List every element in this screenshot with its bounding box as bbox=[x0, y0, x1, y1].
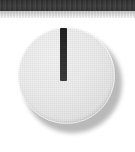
subheader-band bbox=[0, 11, 135, 18]
rotary-knob[interactable] bbox=[14, 24, 124, 138]
knob-screenshot bbox=[0, 0, 135, 152]
header-band bbox=[0, 0, 135, 11]
knob-indicator-icon bbox=[60, 28, 67, 81]
knob-value-label bbox=[14, 24, 15, 25]
